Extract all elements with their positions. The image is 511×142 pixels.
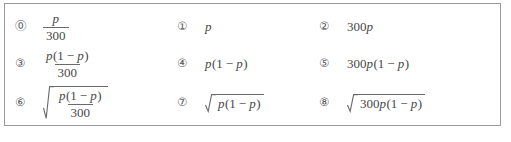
minus-sign: −	[64, 48, 77, 63]
choice-marker-1: ①	[177, 21, 194, 33]
variable-p: p	[249, 96, 256, 112]
choice-marker-8: ⑧	[319, 97, 336, 109]
number-1: 1	[70, 88, 77, 103]
radicand: p(1−p)	[216, 94, 264, 112]
paren-close: )	[256, 96, 260, 112]
radicand: 300p(1−p)	[358, 94, 425, 112]
paren-close: )	[243, 56, 247, 72]
answer-choice-7[interactable]: ⑦ p(1−p)	[177, 84, 264, 122]
answer-choice-3[interactable]: ③ p(1−p) 300	[15, 47, 92, 81]
coefficient-300: 300	[347, 19, 367, 35]
square-root: 300p(1−p)	[347, 94, 425, 112]
variable-p: p	[367, 56, 374, 72]
variable-p: p	[398, 56, 405, 72]
answer-choice-4[interactable]: ④ p(1−p)	[177, 47, 248, 81]
choice-marker-3: ③	[15, 58, 32, 70]
square-root: p(1−p)	[205, 94, 264, 112]
variable-p: p	[411, 96, 418, 112]
variable-p: p	[59, 88, 66, 103]
choice-expression-5: 300p(1−p)	[347, 56, 409, 72]
fraction-numerator: p(1−p)	[56, 89, 105, 104]
answer-choice-0[interactable]: ⓪ p 300	[15, 10, 69, 44]
choice-marker-4: ④	[177, 58, 194, 70]
choice-marker-7: ⑦	[177, 97, 194, 109]
minus-sign: −	[77, 88, 90, 103]
fraction: p 300	[43, 12, 69, 42]
paren-close: )	[418, 96, 422, 112]
answer-choice-1[interactable]: ① p	[177, 10, 212, 44]
choice-expression-2: 300 p	[347, 19, 374, 35]
answer-choice-8[interactable]: ⑧ 300p(1−p)	[319, 84, 425, 122]
square-root: p(1−p) 300	[43, 86, 108, 119]
variable-p: p	[205, 56, 212, 72]
answer-choices-grid: ⓪ p 300 ① p ② 300 p ③	[5, 4, 500, 125]
choice-marker-2: ②	[319, 21, 336, 33]
paren-close: )	[84, 48, 88, 63]
answer-choice-2[interactable]: ② 300 p	[319, 10, 374, 44]
answer-choice-6[interactable]: ⑥ p(1−p) 300	[15, 84, 108, 122]
answer-choice-5[interactable]: ⑤ 300p(1−p)	[319, 47, 409, 81]
fraction-numerator: p	[50, 12, 63, 27]
answer-choices-box: ⓪ p 300 ① p ② 300 p ③	[4, 3, 501, 126]
choice-expression-0: p 300	[43, 12, 69, 42]
fraction-denominator: 300	[43, 27, 69, 43]
fraction-denominator: 300	[68, 104, 94, 120]
paren-close: )	[97, 88, 101, 103]
fraction: p(1−p) 300	[43, 49, 92, 79]
choice-expression-6: p(1−p) 300	[43, 86, 108, 119]
minus-sign: −	[384, 56, 397, 72]
minus-sign: −	[236, 96, 249, 112]
variable-p: p	[380, 96, 387, 112]
minus-sign: −	[397, 96, 410, 112]
choice-expression-1: p	[205, 19, 212, 35]
choice-marker-5: ⑤	[319, 58, 336, 70]
variable-p: p	[367, 19, 374, 35]
variable-p: p	[236, 56, 243, 72]
coefficient-300: 300	[360, 96, 380, 112]
radical-sign-icon	[205, 94, 216, 112]
radical-sign-icon	[43, 86, 54, 119]
choice-marker-0: ⓪	[15, 21, 32, 33]
choice-expression-7: p(1−p)	[205, 94, 264, 112]
choice-marker-6: ⑥	[15, 97, 32, 109]
choice-expression-8: 300p(1−p)	[347, 94, 425, 112]
variable-p: p	[46, 48, 53, 63]
radical-sign-icon	[347, 94, 358, 112]
fraction-denominator: 300	[55, 64, 81, 80]
variable-p: p	[218, 96, 225, 112]
footer-caption	[150, 133, 511, 142]
number-1: 1	[57, 48, 64, 63]
fraction-numerator: p(1−p)	[43, 49, 92, 64]
fraction: p(1−p) 300	[56, 89, 105, 119]
paren-close: )	[405, 56, 409, 72]
variable-p: p	[205, 19, 212, 35]
coefficient-300: 300	[347, 56, 367, 72]
minus-sign: −	[223, 56, 236, 72]
choice-expression-4: p(1−p)	[205, 56, 248, 72]
choice-expression-3: p(1−p) 300	[43, 49, 92, 79]
radicand: p(1−p) 300	[54, 86, 108, 119]
